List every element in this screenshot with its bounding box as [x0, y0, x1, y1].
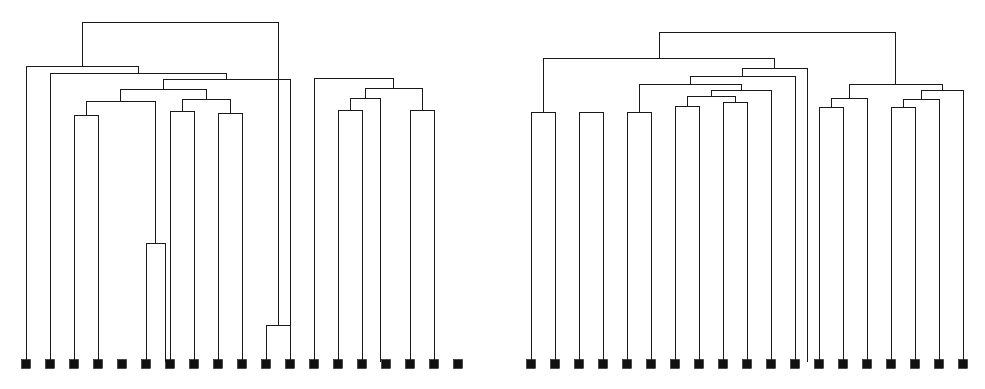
leaf-marker	[382, 360, 391, 369]
leaf-marker	[839, 360, 848, 369]
leaf-marker	[166, 360, 175, 369]
leaf-marker	[22, 360, 31, 369]
dendrogram-link	[690, 76, 795, 362]
dendrogram-link	[74, 115, 98, 362]
leaf-marker	[959, 360, 968, 369]
leaf-marker	[671, 360, 680, 369]
dendrogram-link	[266, 325, 290, 362]
dendrogram-link	[711, 90, 771, 362]
dendrogram-link	[365, 88, 422, 110]
dendrogram-link	[819, 107, 843, 362]
dendrogram-link	[218, 113, 242, 362]
leaf-marker	[286, 360, 295, 369]
dendrogram-link	[314, 78, 393, 362]
leaf-marker	[430, 360, 439, 369]
dendrogram-link	[891, 107, 915, 362]
leaf-marker	[46, 360, 55, 369]
dendrogram-link	[410, 110, 434, 362]
leaf-marker	[238, 360, 247, 369]
leaf-marker	[695, 360, 704, 369]
leaf-marker	[719, 360, 728, 369]
dendrogram-link	[146, 243, 165, 362]
leaf-marker	[142, 360, 151, 369]
leaf-marker	[358, 360, 367, 369]
leaf-marker	[190, 360, 199, 369]
dendrogram-link	[26, 66, 138, 362]
dendrogram-link	[723, 102, 747, 362]
leaf-markers	[22, 360, 463, 369]
dendrogram-link	[831, 98, 867, 362]
leaf-marker	[262, 360, 271, 369]
leaf-marker	[406, 360, 415, 369]
dendrogram-link	[531, 112, 555, 362]
right-dendrogram-plot	[493, 0, 985, 389]
left-dendrogram-plot	[0, 0, 493, 389]
dendrogram-links	[26, 22, 434, 362]
leaf-marker	[70, 360, 79, 369]
leaf-marker	[863, 360, 872, 369]
leaf-marker	[935, 360, 944, 369]
leaf-marker	[911, 360, 920, 369]
dendrogram-link	[687, 96, 735, 106]
dendrogram-link	[338, 110, 362, 362]
dendrogram-link	[921, 90, 963, 362]
dendrogram-link	[82, 22, 278, 325]
leaf-markers	[527, 360, 968, 369]
dendrogram-link	[639, 84, 741, 112]
leaf-marker	[214, 360, 223, 369]
leaf-marker	[767, 360, 776, 369]
leaf-marker	[334, 360, 343, 369]
dendrogram-link	[170, 111, 194, 362]
dendrogram-link	[675, 106, 699, 362]
dendrogram-link	[163, 79, 290, 362]
leaf-marker	[551, 360, 560, 369]
leaf-marker	[623, 360, 632, 369]
dendrogram-link	[86, 101, 155, 243]
dendrogram-link	[350, 98, 380, 362]
panel-left-dendrogram	[0, 0, 493, 389]
panel-right-dendrogram	[493, 0, 985, 389]
leaf-marker	[94, 360, 103, 369]
dendrogram-figure	[0, 0, 985, 389]
dendrogram-links	[531, 32, 963, 362]
leaf-marker	[743, 360, 752, 369]
leaf-marker	[310, 360, 319, 369]
leaf-marker	[454, 360, 463, 369]
dendrogram-link	[543, 58, 774, 112]
leaf-marker	[815, 360, 824, 369]
dendrogram-link	[627, 112, 651, 362]
dendrogram-link	[579, 112, 603, 362]
dendrogram-link	[742, 68, 807, 362]
dendrogram-link	[849, 84, 942, 98]
leaf-marker	[575, 360, 584, 369]
leaf-marker	[599, 360, 608, 369]
leaf-marker	[647, 360, 656, 369]
leaf-marker	[118, 360, 127, 369]
dendrogram-link	[50, 73, 226, 362]
leaf-marker	[791, 360, 800, 369]
leaf-marker	[527, 360, 536, 369]
leaf-marker	[887, 360, 896, 369]
dendrogram-link	[903, 99, 939, 362]
